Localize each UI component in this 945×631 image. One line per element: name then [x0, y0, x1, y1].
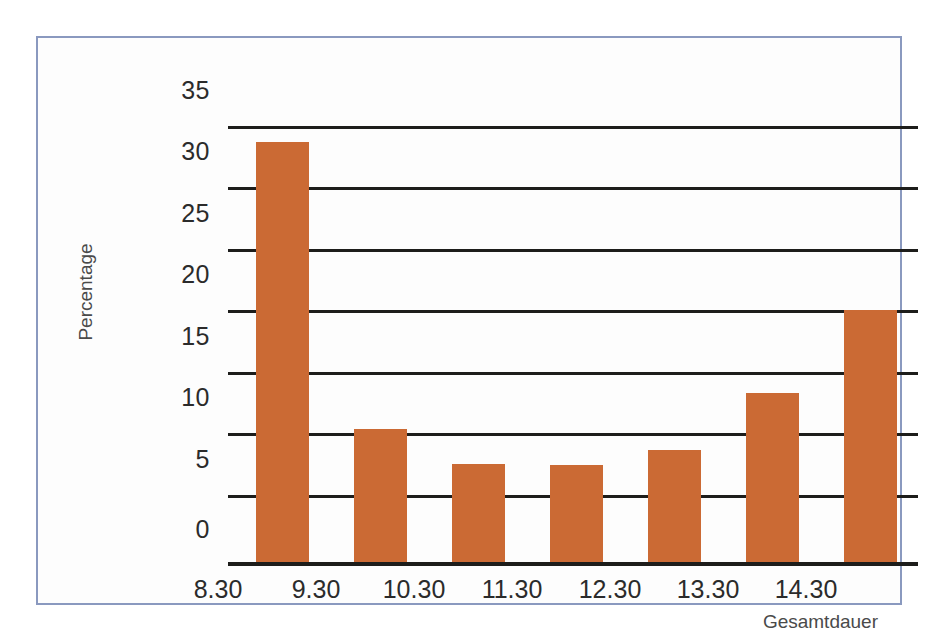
- bar-14-30: [844, 310, 897, 562]
- gridline-10: [228, 433, 918, 436]
- gridline-20: [228, 310, 918, 313]
- bar-10-30: [452, 464, 505, 562]
- gridline-35: [228, 126, 918, 129]
- chart-frame: Percentage 35 30 25 20 15 10 5 0: [36, 36, 902, 605]
- x-tick-label: 10.30: [359, 575, 469, 604]
- gridline-15: [228, 372, 918, 375]
- x-tick-label: 8.30: [163, 575, 273, 604]
- y-axis-title: Percentage: [75, 227, 97, 357]
- y-tick-label: 15: [181, 322, 210, 351]
- x-tick-label: 9.30: [261, 575, 371, 604]
- bar-12-30: [648, 450, 701, 562]
- plot-area: [228, 126, 918, 565]
- y-axis-tick-labels: 35 30 25 20 15 10 5 0: [148, 38, 210, 631]
- figure-canvas: Percentage 35 30 25 20 15 10 5 0: [0, 0, 945, 631]
- bar-13-30: [746, 393, 799, 562]
- x-tick-label: 11.30: [457, 575, 567, 604]
- y-tick-label: 10: [181, 383, 210, 412]
- bar-9-30: [354, 429, 407, 562]
- y-tick-label: 35: [181, 76, 210, 105]
- y-tick-label: 20: [181, 260, 210, 289]
- y-tick-label: 25: [181, 199, 210, 228]
- gridline-25: [228, 249, 918, 252]
- bar-11-30: [550, 465, 603, 562]
- gridline-30: [228, 187, 918, 190]
- y-tick-label: 0: [196, 515, 210, 544]
- x-axis-baseline: [228, 562, 918, 566]
- y-tick-label: 30: [181, 137, 210, 166]
- x-tick-label: 12.30: [555, 575, 665, 604]
- x-tick-label: 13.30: [653, 575, 763, 604]
- x-axis-title: Gesamtdauer: [763, 611, 878, 631]
- x-tick-label: 14.30: [751, 575, 861, 604]
- bar-8-30: [256, 142, 309, 562]
- y-tick-label: 5: [196, 445, 210, 474]
